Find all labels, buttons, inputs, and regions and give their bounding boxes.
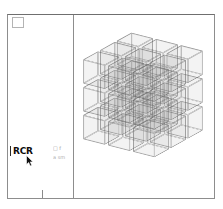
sidebar-note-line-2: a sm (53, 153, 74, 162)
cube-face (83, 115, 105, 145)
content-pane[interactable] (75, 15, 214, 198)
lattice-cube (140, 68, 162, 98)
sidebar-panel: RCR □ f a sm (8, 15, 74, 198)
sidebar-tick-mark (42, 190, 43, 198)
cube-face (108, 93, 130, 123)
cube-face (133, 99, 155, 129)
sidebar-note-line-1: □ f (53, 144, 74, 153)
cube-face (83, 87, 105, 117)
cube-face (133, 127, 155, 157)
cube-face (108, 65, 130, 95)
sidebar-label: RCR (13, 146, 33, 156)
app-window: RCR □ f a sm (7, 14, 215, 199)
sidebar-label-marker (10, 146, 11, 156)
cube-face (133, 72, 155, 102)
cube-face (108, 121, 130, 151)
cube-face (83, 59, 105, 89)
sidebar-notes: □ f a sm (53, 144, 74, 162)
corner-box[interactable] (12, 17, 24, 28)
